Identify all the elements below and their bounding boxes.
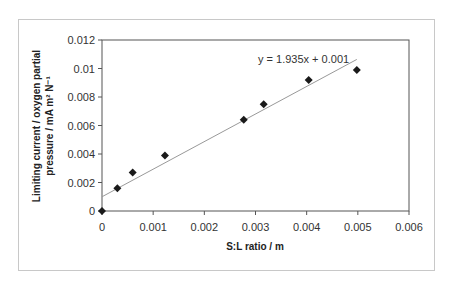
- x-tick-label: 0.001: [139, 221, 167, 233]
- data-point-diamond: [305, 76, 313, 84]
- x-tick-label: 0.006: [395, 221, 423, 233]
- plot-area: 00.0010.0020.0030.0040.0050.00600.0020.0…: [67, 34, 422, 233]
- y-tick-label: 0.002: [67, 177, 95, 189]
- data-point-diamond: [129, 169, 137, 177]
- plot-border: [102, 40, 409, 211]
- y-tick-label: 0.004: [67, 148, 95, 160]
- data-point-diamond: [98, 207, 106, 215]
- y-tick-label: 0.012: [67, 34, 95, 46]
- y-tick-label: 0.008: [67, 91, 95, 103]
- x-tick-label: 0.005: [344, 221, 372, 233]
- data-point-diamond: [260, 100, 268, 108]
- y-axis-title-line2: pressure / mA m² N⁻¹: [44, 76, 55, 176]
- trendline: [102, 59, 357, 196]
- x-tick-label: 0.004: [293, 221, 321, 233]
- data-point-diamond: [161, 151, 169, 159]
- y-tick-label: 0: [89, 205, 95, 217]
- x-tick-label: 0.003: [242, 221, 270, 233]
- x-axis-title: S:L ratio / m: [226, 241, 284, 252]
- y-axis-title-line1: Limiting current / oxygen partial: [31, 50, 42, 202]
- trendline-equation: y = 1.935x + 0.001: [258, 53, 349, 65]
- x-tick-label: 0.002: [191, 221, 219, 233]
- data-point-diamond: [353, 66, 361, 74]
- data-point-diamond: [240, 116, 248, 124]
- y-tick-label: 0.006: [67, 120, 95, 132]
- scatter-chart: 00.0010.0020.0030.0040.0050.00600.0020.0…: [0, 0, 454, 291]
- x-tick-label: 0: [99, 221, 105, 233]
- data-point-diamond: [113, 184, 121, 192]
- y-tick-label: 0.01: [74, 63, 95, 75]
